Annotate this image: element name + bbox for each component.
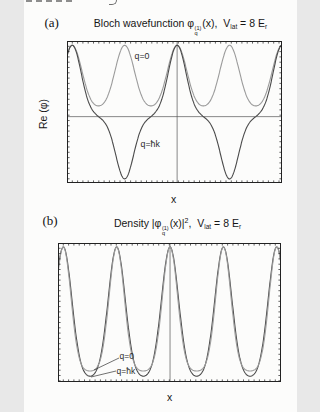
panel-b-tag: (b) xyxy=(43,213,58,229)
phi-subsup: (1)q xyxy=(195,26,202,36)
panel-b-title: Density |φ(1)q(x)|2, Vlat = 8 Er xyxy=(68,217,288,236)
panel-a-tag: (a) xyxy=(45,15,59,31)
panel-b-curve-label-q0: q=0 xyxy=(120,351,134,361)
panel-a-title-text: Bloch wavefunction xyxy=(94,17,187,29)
panel-a-x-axis-label: x xyxy=(164,193,184,205)
panel-b-plot xyxy=(58,243,281,382)
panel-b-x-axis-label: x xyxy=(160,391,180,403)
panel-a-curve-label-q0: q=0 xyxy=(135,51,150,61)
panel-b-title-text: Density | xyxy=(114,217,155,229)
figure-bloch-wavefunctions: (a) Bloch wavefunction φ(1)q(x), Vlat = … xyxy=(24,0,297,412)
phi-symbol: φ xyxy=(155,217,162,229)
panel-a-title: Bloch wavefunction φ(1)q(x), Vlat = 8 Er xyxy=(72,17,290,36)
phi-subsup: (1)q xyxy=(162,226,169,236)
phi-symbol: φ xyxy=(187,17,194,29)
panel-b-curve-label-qhk: q=ħk xyxy=(117,366,136,376)
panel-a-curve-label-qhk: q=ħk xyxy=(141,139,160,149)
panel-a-y-axis-label: Re (φ) xyxy=(37,84,49,144)
panel-a-plot xyxy=(67,41,282,183)
